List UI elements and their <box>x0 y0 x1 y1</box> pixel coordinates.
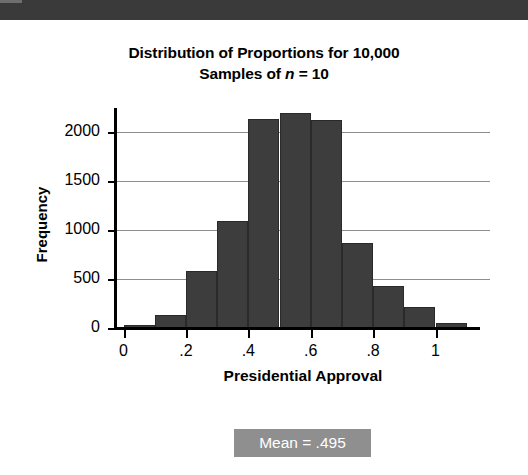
x-axis-tick-label: .8 <box>353 342 393 360</box>
x-axis-tick <box>186 329 188 338</box>
x-axis-tick-label: .6 <box>291 342 331 360</box>
x-axis-tick-label: 1 <box>416 342 456 360</box>
x-axis-tick-label: .4 <box>228 342 268 360</box>
x-axis-tick-label: 0 <box>104 342 144 360</box>
chart-figure: Distribution of Proportions for 10,000 S… <box>0 20 528 475</box>
scan-artifact-band <box>0 0 528 20</box>
x-axis-tick <box>373 329 375 338</box>
x-axis-tick <box>248 329 250 338</box>
bar <box>311 120 342 328</box>
bar <box>342 243 373 328</box>
x-axis-tick-label: .2 <box>166 342 206 360</box>
x-axis-line <box>114 327 480 330</box>
bar <box>186 271 217 328</box>
bar <box>373 286 404 328</box>
y-axis-line <box>114 108 117 330</box>
x-axis-tick <box>311 329 313 338</box>
y-axis-tick-label: 500 <box>0 269 100 287</box>
bar <box>217 221 248 328</box>
y-axis-tick-label: 1500 <box>0 171 100 189</box>
bar <box>280 113 311 328</box>
y-axis-tick-label: 0 <box>0 318 100 336</box>
y-axis-tick-label: 2000 <box>0 122 100 140</box>
bar <box>248 119 279 328</box>
y-axis-title: Frequency <box>33 145 50 305</box>
x-axis-tick <box>124 329 126 338</box>
mean-annotation-box: Mean = .495 <box>234 429 371 457</box>
y-axis-tick-label: 1000 <box>0 220 100 238</box>
bar <box>404 307 435 328</box>
x-axis-title: Presidential Approval <box>116 367 490 385</box>
x-axis-tick <box>436 329 438 338</box>
plot-area: 0500100015002000 0.2.4.6.81 <box>0 20 528 475</box>
